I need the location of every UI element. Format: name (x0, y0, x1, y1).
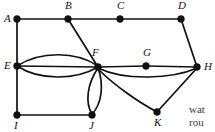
vertex-label-c: C (117, 0, 124, 11)
vertex-k (154, 109, 161, 116)
vertex-a (14, 16, 21, 23)
graph-canvas (0, 0, 215, 132)
vertex-label-b: B (65, 0, 72, 11)
vertex-b (65, 16, 72, 23)
edge-layer (17, 19, 197, 115)
vertex-i (14, 112, 21, 119)
vertex-label-e: E (4, 60, 11, 71)
page-text-line-1: wat (189, 103, 205, 116)
edge-B-F (68, 19, 98, 67)
edge-G-H (146, 66, 197, 67)
vertex-label-g: G (143, 47, 151, 58)
edge-D-H (181, 19, 197, 67)
vertex-c (117, 16, 124, 23)
page-text-line-2: rou (189, 116, 205, 129)
vertex-label-d: D (178, 0, 186, 11)
vertex-h (194, 64, 201, 71)
vertex-label-h: H (204, 61, 212, 72)
graph-figure: ABCDEFGHIJK watrou (0, 0, 215, 132)
vertex-label-a: A (4, 13, 11, 24)
vertex-e (14, 63, 21, 70)
edge-E-F-middle (17, 66, 98, 67)
vertex-d (178, 16, 185, 23)
vertex-g (143, 63, 150, 70)
vertex-label-j: J (89, 120, 94, 131)
vertex-f (95, 64, 102, 71)
edge-F-G (98, 66, 146, 67)
vertex-label-f: F (92, 47, 99, 58)
page-body-text: watrou (189, 103, 205, 129)
vertex-j (89, 112, 96, 119)
vertex-label-k: K (154, 117, 161, 128)
edge-E-F-upper (17, 55, 98, 66)
vertex-label-i: I (14, 120, 18, 131)
